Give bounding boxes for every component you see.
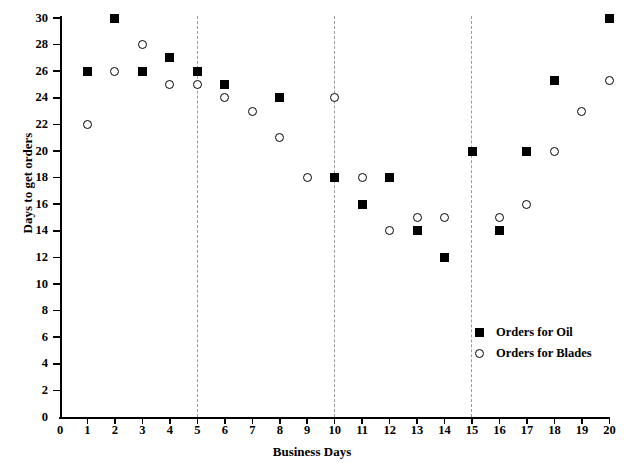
y-tick <box>53 150 60 152</box>
data-point-oil <box>522 147 531 156</box>
y-tick <box>53 124 60 126</box>
data-point-blades <box>220 93 229 102</box>
legend-item-orders-for-oil: Orders for Oil <box>470 322 592 343</box>
y-tick-label: 8 <box>22 304 48 317</box>
data-point-blades <box>248 107 257 116</box>
legend-item-orders-for-blades: Orders for Blades <box>470 343 592 364</box>
reference-line-day-10 <box>334 16 335 417</box>
x-tick-label: 11 <box>347 424 377 437</box>
y-tick <box>53 390 60 392</box>
plot-area: 024681012141618202224262830 012345678910… <box>0 0 624 465</box>
data-point-blades <box>275 133 284 142</box>
y-tick-label: 26 <box>22 65 48 78</box>
data-point-oil <box>440 253 449 262</box>
data-point-blades <box>193 80 202 89</box>
y-tick-label: 0 <box>22 411 48 424</box>
x-tick-label: 3 <box>127 424 157 437</box>
legend-label: Orders for Oil <box>488 325 573 340</box>
y-tick <box>53 283 60 285</box>
data-point-blades <box>83 120 92 129</box>
x-tick-label: 18 <box>539 424 569 437</box>
y-axis-line <box>60 16 62 419</box>
y-tick-label: 6 <box>22 331 48 344</box>
y-tick <box>53 363 60 365</box>
x-tick-label: 2 <box>100 424 130 437</box>
data-point-oil <box>220 80 229 89</box>
x-tick-label: 16 <box>485 424 515 437</box>
data-point-oil <box>605 14 614 23</box>
data-point-blades <box>522 200 531 209</box>
x-tick-label: 9 <box>292 424 322 437</box>
x-tick-label: 1 <box>72 424 102 437</box>
data-point-blades <box>413 213 422 222</box>
data-point-oil <box>138 67 147 76</box>
y-tick <box>53 230 60 232</box>
data-point-oil <box>165 53 174 62</box>
y-tick-label: 24 <box>22 91 48 104</box>
x-tick-label: 8 <box>265 424 295 437</box>
y-tick-label: 30 <box>22 12 48 25</box>
y-tick-label: 28 <box>22 38 48 51</box>
y-tick-label: 2 <box>22 384 48 397</box>
y-tick <box>53 44 60 46</box>
data-point-blades <box>385 226 394 235</box>
x-tick-label: 10 <box>320 424 350 437</box>
data-point-oil <box>193 67 202 76</box>
data-point-blades <box>577 107 586 116</box>
data-point-oil <box>330 173 339 182</box>
y-tick <box>53 97 60 99</box>
y-tick <box>53 177 60 179</box>
data-point-oil <box>110 14 119 23</box>
y-tick-label: 10 <box>22 278 48 291</box>
y-tick <box>53 336 60 338</box>
x-tick-label: 13 <box>402 424 432 437</box>
data-point-blades <box>330 93 339 102</box>
x-tick-label: 17 <box>512 424 542 437</box>
y-tick <box>53 310 60 312</box>
data-point-blades <box>605 76 614 85</box>
data-point-oil <box>275 93 284 102</box>
x-tick-label: 14 <box>430 424 460 437</box>
data-point-blades <box>550 147 559 156</box>
y-tick <box>53 257 60 259</box>
reference-line-day-5 <box>197 16 198 417</box>
data-point-blades <box>440 213 449 222</box>
x-tick-label: 19 <box>567 424 597 437</box>
data-point-blades <box>165 80 174 89</box>
x-tick-label: 15 <box>457 424 487 437</box>
data-point-oil <box>413 226 422 235</box>
data-point-blades <box>303 173 312 182</box>
scatter-chart: 024681012141618202224262830 012345678910… <box>0 0 624 465</box>
x-tick-label: 5 <box>182 424 212 437</box>
data-point-oil <box>468 147 477 156</box>
y-tick <box>53 203 60 205</box>
data-point-oil <box>83 67 92 76</box>
data-point-blades <box>138 40 147 49</box>
data-point-oil <box>550 76 559 85</box>
data-point-blades <box>358 173 367 182</box>
y-tick <box>53 70 60 72</box>
data-point-blades <box>495 213 504 222</box>
x-tick-label: 4 <box>155 424 185 437</box>
x-tick-label: 6 <box>210 424 240 437</box>
data-point-blades <box>110 67 119 76</box>
x-axis-title: Business Days <box>0 444 624 460</box>
open-circle-icon <box>470 349 488 358</box>
y-tick-label: 4 <box>22 357 48 370</box>
data-point-oil <box>358 200 367 209</box>
data-point-oil <box>385 173 394 182</box>
y-axis-title: Days to get orders <box>20 103 36 263</box>
y-tick <box>53 17 60 19</box>
legend-label: Orders for Blades <box>488 346 592 361</box>
x-tick-label: 7 <box>237 424 267 437</box>
x-tick-label: 12 <box>375 424 405 437</box>
data-point-oil <box>495 226 504 235</box>
x-tick-label: 0 <box>45 424 75 437</box>
filled-square-icon <box>470 328 488 337</box>
x-tick-label: 20 <box>594 424 624 437</box>
chart-legend: Orders for Oil Orders for Blades <box>470 322 592 364</box>
